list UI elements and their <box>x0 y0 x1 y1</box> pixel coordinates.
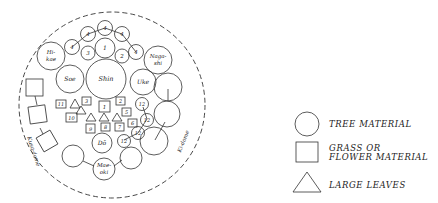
nagashi-label: Naga- <box>149 53 167 60</box>
label-4: 4 <box>85 31 90 37</box>
legend-triangle-icon <box>293 172 321 192</box>
legend-grass-label: FLOWER MATERIAL <box>328 152 428 162</box>
hikae-label: kae <box>46 56 57 62</box>
kusadome-label: Kusa-dome <box>26 135 42 168</box>
tree-circle-kidome <box>154 101 180 127</box>
label-s11: 11 <box>58 101 64 107</box>
label-4: 4 <box>133 49 138 55</box>
hikae-label: Hi- <box>46 49 56 55</box>
soe-label: Soe <box>64 75 76 82</box>
label-3: 3 <box>86 50 90 56</box>
nagashi-label: shi <box>154 60 162 66</box>
tree-circle <box>62 145 84 167</box>
label-2: 2 <box>119 53 124 59</box>
do-label: Dō <box>97 139 107 146</box>
label-s6: 6 <box>131 120 135 126</box>
leaf-triangle <box>99 113 109 121</box>
label-12: 12 <box>121 138 127 144</box>
leaf-triangle <box>112 113 122 121</box>
label-s3: 3 <box>85 98 88 104</box>
leaf-triangle <box>86 113 96 121</box>
label-4: 4 <box>102 25 107 31</box>
arrangement-boundary <box>19 12 205 198</box>
label-4: 4 <box>119 31 124 37</box>
label-s8: 8 <box>104 124 107 130</box>
label-12: 12 <box>135 130 141 136</box>
grass-square-kusadome <box>26 79 43 96</box>
leaf-triangle <box>76 106 86 114</box>
label-1: 1 <box>103 44 107 51</box>
maeoki-label: Mae- <box>96 162 111 168</box>
label-s5: 5 <box>125 109 128 115</box>
label-12: 12 <box>139 101 145 107</box>
grass-square-kusadome <box>36 130 58 152</box>
label-s1: 1 <box>103 104 107 110</box>
maeoki-label: oki <box>100 169 109 175</box>
tree-circle <box>120 147 142 169</box>
label-s10: 10 <box>68 115 75 121</box>
legend-square-icon <box>296 142 318 162</box>
leaf-triangle <box>70 99 80 108</box>
label-12: 12 <box>144 117 150 123</box>
label-s2: 2 <box>118 98 122 104</box>
uke-label: Uke <box>137 78 150 85</box>
legend-circle-icon <box>295 112 319 136</box>
legend-leaves-label: LARGE LEAVES <box>328 180 406 190</box>
grass-square-kusadome <box>28 105 47 124</box>
shin-label: Shin <box>99 75 114 83</box>
legend-tree-label: TREE MATERIAL <box>329 119 412 129</box>
label-s7: 7 <box>118 124 122 130</box>
ikebana-arrangement-diagram: 4 4 4 4 4 3 1 2 Hi- kae Naga- shi Soe Sh… <box>0 0 438 203</box>
kidome-label: Ki-dome <box>176 129 191 154</box>
label-s9: 9 <box>89 126 93 132</box>
label-4: 4 <box>69 44 74 50</box>
